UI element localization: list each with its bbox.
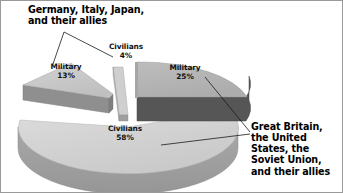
- pie-chart-figure: Germany, Italy, Japan, and their allies …: [0, 0, 343, 193]
- callout-axis-line-2: and their allies: [28, 15, 178, 26]
- leader-line-axis-military: [53, 32, 64, 64]
- pie-slice-allies-civilians: [18, 110, 238, 193]
- slice-label-axis-civilians-value: 4%: [102, 52, 150, 61]
- callout-allies-line-5: and their allies: [251, 166, 343, 177]
- callout-axis-powers: Germany, Italy, Japan, and their allies: [28, 4, 178, 26]
- slice-label-axis-military-value: 13%: [39, 72, 93, 81]
- slice-label-allies-military: Military 25%: [159, 64, 211, 82]
- slice-label-axis-military: Military 13%: [39, 63, 93, 81]
- slice-label-allies-civilians-value: 58%: [96, 134, 154, 143]
- callout-allies-line-2: the United: [251, 132, 343, 143]
- pie-slice-axis-civilians: [113, 67, 128, 121]
- slice-label-axis-civilians: Civilians 4%: [102, 43, 150, 61]
- slice-label-allies-civilians: Civilians 58%: [96, 125, 154, 143]
- callout-allied-powers: Great Britain, the United States, the So…: [251, 121, 343, 177]
- callout-allies-line-4: Soviet Union,: [251, 154, 343, 165]
- callout-allies-line-1: Great Britain,: [251, 121, 343, 132]
- callout-axis-line-1: Germany, Italy, Japan,: [28, 4, 178, 15]
- callout-allies-line-3: States, the: [251, 143, 343, 154]
- slice-label-allies-military-value: 25%: [159, 73, 211, 82]
